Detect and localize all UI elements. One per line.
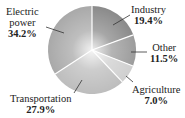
label-industry-name: Industry [131,4,166,15]
label-electric-line1: Electric [6,6,39,17]
label-other: Other 11.5% [150,42,178,64]
leader-agriculture [126,76,133,82]
label-industry: Industry 19.4% [131,4,166,26]
label-transportation: Transportation 27.9% [10,93,71,115]
label-other-value: 11.5% [150,53,178,64]
label-electric-power: Electric power 34.2% [6,6,39,39]
label-electric-line2: power [9,17,35,28]
label-agriculture-value: 7.0% [132,95,180,106]
label-industry-value: 19.4% [131,15,166,26]
label-agriculture-name: Agriculture [132,84,180,95]
label-agriculture: Agriculture 7.0% [132,84,180,106]
label-transportation-value: 27.9% [10,104,71,115]
label-other-name: Other [152,42,176,53]
label-electric-value: 34.2% [6,28,39,39]
label-transportation-name: Transportation [10,93,71,104]
